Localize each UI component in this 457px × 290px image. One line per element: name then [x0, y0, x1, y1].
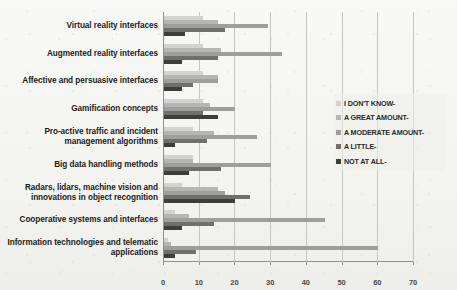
legend-swatch-icon [336, 101, 341, 106]
y-axis-category-label: Information technologies and telematic a… [6, 238, 158, 258]
bar [164, 246, 378, 250]
bar-group [164, 210, 413, 230]
bar-group [164, 71, 413, 91]
x-axis-tick-label: 40 [302, 278, 310, 287]
x-axis-tick-label: 30 [266, 278, 274, 287]
legend-item-label: A LITTLE- [344, 142, 376, 151]
x-axis-tick [413, 262, 414, 265]
bar [164, 254, 175, 258]
y-axis-category-label: Affective and persuasive interfaces [6, 76, 158, 86]
bar-chart: 010203040506070 I DON'T KNOW-A GREAT AMO… [0, 0, 457, 290]
bar [164, 60, 182, 64]
y-axis-category-label: Big data handling methods [6, 160, 158, 170]
bar-group [164, 44, 413, 64]
x-axis-tick [306, 262, 307, 265]
bar-group [164, 16, 413, 36]
x-axis-line [163, 261, 413, 262]
legend-item-label: A GREAT AMOUNT- [344, 113, 409, 122]
bar [164, 226, 182, 230]
x-axis-tick [163, 262, 164, 265]
legend-swatch-icon [336, 115, 341, 120]
legend-item[interactable]: I DON'T KNOW- [336, 96, 446, 111]
y-axis-category-label: Pro-active traffic and incident manageme… [6, 127, 158, 147]
x-axis-tick-label: 60 [373, 278, 381, 287]
legend-item-label: NOT AT ALL- [344, 157, 386, 166]
x-axis-tick-label: 10 [195, 278, 203, 287]
bar [164, 32, 185, 36]
bar [164, 87, 182, 91]
legend-item-label: I DON'T KNOW- [344, 99, 395, 108]
legend-swatch-icon [336, 159, 341, 164]
x-axis-tick-label: 20 [230, 278, 238, 287]
x-axis-tick [199, 262, 200, 265]
bar-group [164, 183, 413, 203]
bar [164, 143, 175, 147]
x-axis-tick [377, 262, 378, 265]
legend-swatch-icon [336, 130, 341, 135]
bar [164, 199, 235, 203]
y-axis-category-label: Augmented reality interfaces [6, 49, 158, 59]
y-axis-category-label: Virtual reality interfaces [6, 21, 158, 31]
chart-legend: I DON'T KNOW-A GREAT AMOUNT-A MODERATE A… [334, 94, 446, 171]
legend-item[interactable]: A GREAT AMOUNT- [336, 111, 446, 126]
bar [164, 171, 189, 175]
x-axis-tick [270, 262, 271, 265]
legend-item[interactable]: NOT AT ALL- [336, 154, 446, 169]
x-axis-tick [234, 262, 235, 265]
x-axis-tick [342, 262, 343, 265]
legend-item[interactable]: A LITTLE- [336, 140, 446, 155]
x-axis-tick-label: 70 [409, 278, 417, 287]
y-axis-category-label: Radars, lidars, machine vision and innov… [6, 183, 158, 203]
x-axis-tick-label: 0 [161, 278, 165, 287]
bar [164, 115, 218, 119]
legend-swatch-icon [336, 144, 341, 149]
x-axis-tick-label: 50 [337, 278, 345, 287]
bar-group [164, 238, 413, 258]
legend-item-label: A MODERATE AMOUNT- [344, 128, 424, 137]
legend-item[interactable]: A MODERATE AMOUNT- [336, 125, 446, 140]
y-axis-category-label: Gamification concepts [6, 104, 158, 114]
y-axis-category-label: Cooperative systems and interfaces [6, 215, 158, 225]
